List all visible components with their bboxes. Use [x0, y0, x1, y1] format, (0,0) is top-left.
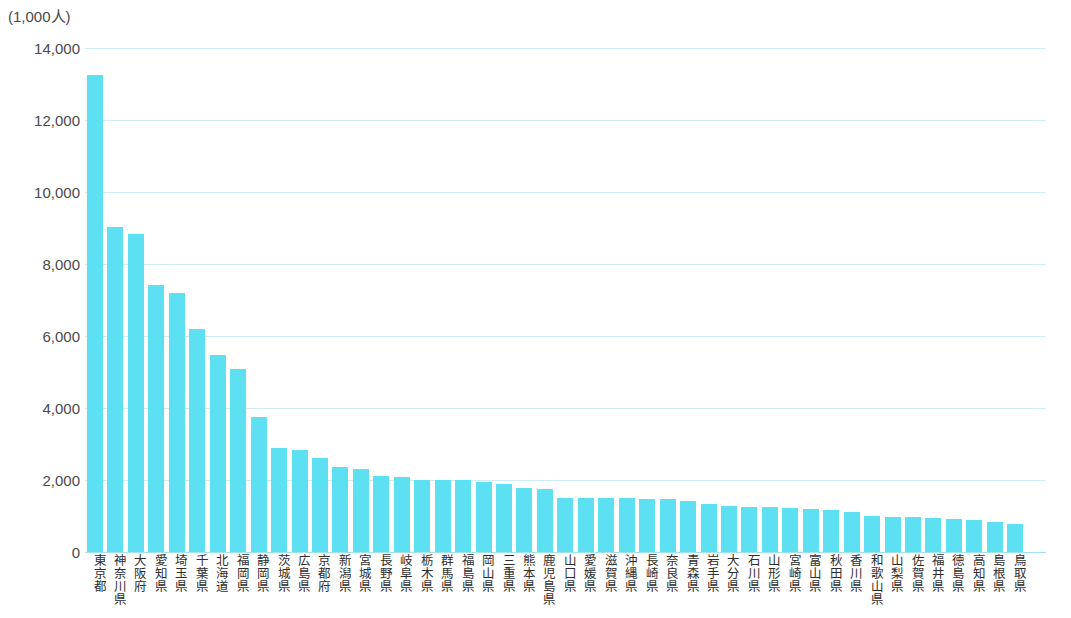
- y-axis-tick-label: 12,000: [2, 112, 80, 129]
- bar: [373, 476, 389, 552]
- x-axis-tick-label: 大阪府: [126, 554, 146, 593]
- x-axis-tick-label: 石川県: [739, 554, 759, 593]
- bar: [189, 329, 205, 552]
- bar: [107, 227, 123, 552]
- bar: [905, 517, 921, 552]
- x-axis-tick-label: 鳥取県: [1005, 554, 1025, 593]
- bar: [762, 507, 778, 552]
- x-axis-tick-label: 鹿児島県: [535, 554, 555, 606]
- x-axis-tick-label: 香川県: [842, 554, 862, 593]
- bar: [516, 488, 532, 552]
- bar: [966, 520, 982, 552]
- x-axis-tick-label: 徳島県: [944, 554, 964, 593]
- x-axis-tick-label: 島根県: [985, 554, 1005, 593]
- bar: [312, 458, 328, 552]
- x-axis-tick-label: 広島県: [290, 554, 310, 593]
- x-axis-tick-label: 埼玉県: [167, 554, 187, 593]
- x-axis-tick-label: 和歌山県: [862, 554, 882, 606]
- x-axis-tick-label: 山口県: [555, 554, 575, 593]
- x-axis-tick-label: 新潟県: [330, 554, 350, 593]
- x-axis-tick-label: 三重県: [494, 554, 514, 593]
- bar: [414, 480, 430, 552]
- bar: [741, 507, 757, 552]
- x-axis-tick-label: 長崎県: [637, 554, 657, 593]
- x-axis-labels: 東京都神奈川県大阪府愛知県埼玉県千葉県北海道福岡県静岡県茨城県広島県京都府新潟県…: [85, 554, 1046, 618]
- bar: [210, 355, 226, 552]
- x-axis-tick-label: 長野県: [371, 554, 391, 593]
- x-axis-tick-label: 沖縄県: [617, 554, 637, 593]
- x-axis-tick-label: 熊本県: [514, 554, 534, 593]
- bar: [332, 467, 348, 552]
- bar: [987, 522, 1003, 552]
- x-axis-tick-label: 福井県: [923, 554, 943, 593]
- x-axis-tick-label: 宮城県: [351, 554, 371, 593]
- bar: [455, 480, 471, 552]
- y-axis: 14,00012,00010,0008,0006,0004,0002,0000: [0, 48, 80, 552]
- bar: [230, 369, 246, 552]
- x-axis-tick-label: 群馬県: [433, 554, 453, 593]
- bar: [271, 448, 287, 552]
- bar: [578, 498, 594, 552]
- x-axis-tick-label: 福岡県: [228, 554, 248, 593]
- y-axis-tick-label: 2,000: [2, 472, 80, 489]
- bar: [394, 477, 410, 552]
- x-axis-tick-label: 大分県: [719, 554, 739, 593]
- bar-series: [85, 48, 1046, 552]
- y-axis-tick-label: 0: [2, 544, 80, 561]
- bar: [251, 417, 267, 552]
- bar: [148, 285, 164, 552]
- y-axis-tick-label: 4,000: [2, 400, 80, 417]
- bar: [680, 501, 696, 552]
- x-axis-tick-label: 佐賀県: [903, 554, 923, 593]
- x-axis-tick-label: 愛媛県: [576, 554, 596, 593]
- y-axis-tick-label: 8,000: [2, 256, 80, 273]
- bar: [844, 512, 860, 552]
- x-axis-tick-label: 滋賀県: [596, 554, 616, 593]
- bar: [476, 482, 492, 552]
- x-axis-tick-label: 奈良県: [658, 554, 678, 593]
- bar: [864, 516, 880, 552]
- x-axis-tick-label: 茨城県: [269, 554, 289, 593]
- x-axis-tick-label: 岩手県: [699, 554, 719, 593]
- bar: [496, 484, 512, 552]
- bar: [1007, 524, 1023, 552]
- x-axis-tick-label: 福島県: [453, 554, 473, 593]
- x-axis-tick-label: 秋田県: [821, 554, 841, 593]
- x-axis-tick-label: 神奈川県: [105, 554, 125, 606]
- x-axis-tick-label: 愛知県: [146, 554, 166, 593]
- y-axis-tick-label: 6,000: [2, 328, 80, 345]
- bar: [87, 75, 103, 552]
- x-axis-tick-label: 山形県: [760, 554, 780, 593]
- x-axis-tick-label: 青森県: [678, 554, 698, 593]
- y-axis-tick-label: 14,000: [2, 40, 80, 57]
- bar: [721, 506, 737, 552]
- x-axis-tick-label: 岐阜県: [392, 554, 412, 593]
- population-bar-chart: (1,000人) 14,00012,00010,0008,0006,0004,0…: [0, 0, 1071, 618]
- x-axis-tick-label: 高知県: [964, 554, 984, 593]
- y-axis-unit-label: (1,000人): [8, 5, 71, 26]
- bar: [557, 498, 573, 552]
- x-axis-tick-label: 宮崎県: [780, 554, 800, 593]
- x-axis-tick-label: 岡山県: [474, 554, 494, 593]
- bar: [537, 489, 553, 552]
- x-axis-tick-label: 山梨県: [883, 554, 903, 593]
- bar: [353, 469, 369, 552]
- bar: [782, 508, 798, 552]
- x-axis-tick-label: 東京都: [85, 554, 105, 593]
- bar: [639, 499, 655, 552]
- bar: [885, 517, 901, 552]
- bar: [660, 499, 676, 552]
- bar: [619, 498, 635, 552]
- bar: [128, 234, 144, 552]
- x-axis-tick-label: 北海道: [208, 554, 228, 593]
- bar: [169, 293, 185, 552]
- x-axis-tick-label: 京都府: [310, 554, 330, 593]
- bar: [946, 519, 962, 552]
- x-axis-tick-label: 富山県: [801, 554, 821, 593]
- bar: [435, 480, 451, 552]
- bar: [823, 510, 839, 552]
- bar: [701, 504, 717, 552]
- x-axis-tick-label: 千葉県: [187, 554, 207, 593]
- x-axis-tick-label: 栃木県: [412, 554, 432, 593]
- bar: [803, 509, 819, 552]
